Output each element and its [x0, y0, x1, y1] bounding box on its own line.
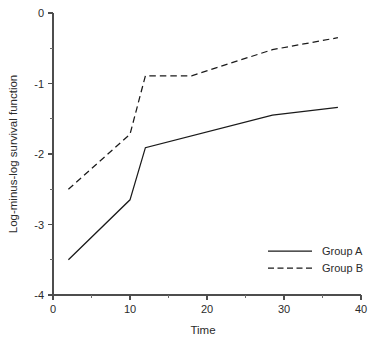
series-line-group-b — [68, 38, 338, 190]
axes — [53, 13, 361, 295]
chart-container: 0-1-2-3-4 010203040 Time Log-minus-log s… — [0, 0, 377, 346]
x-axis-title: Time — [190, 324, 215, 336]
y-axis-major-ticks — [48, 13, 53, 295]
y-tick-label: 0 — [38, 7, 44, 19]
y-axis-title: Log-minus-log survival function — [7, 75, 19, 234]
x-tick-label: 0 — [50, 303, 56, 315]
x-axis-tick-labels: 010203040 — [50, 303, 367, 315]
x-tick-label: 40 — [355, 303, 367, 315]
y-tick-label: -2 — [34, 148, 44, 160]
legend-label: Group B — [322, 262, 363, 274]
legend: Group AGroup B — [268, 245, 363, 274]
x-tick-label: 10 — [124, 303, 136, 315]
data-series — [68, 38, 338, 260]
y-axis-tick-labels: 0-1-2-3-4 — [34, 7, 44, 301]
x-tick-label: 20 — [201, 303, 213, 315]
legend-label: Group A — [322, 245, 363, 257]
y-tick-label: -3 — [34, 219, 44, 231]
line-chart: 0-1-2-3-4 010203040 Time Log-minus-log s… — [0, 0, 377, 346]
series-line-group-a — [68, 107, 338, 259]
x-tick-label: 30 — [278, 303, 290, 315]
y-tick-label: -1 — [34, 78, 44, 90]
x-axis-major-ticks — [53, 295, 361, 300]
y-tick-label: -4 — [34, 289, 44, 301]
